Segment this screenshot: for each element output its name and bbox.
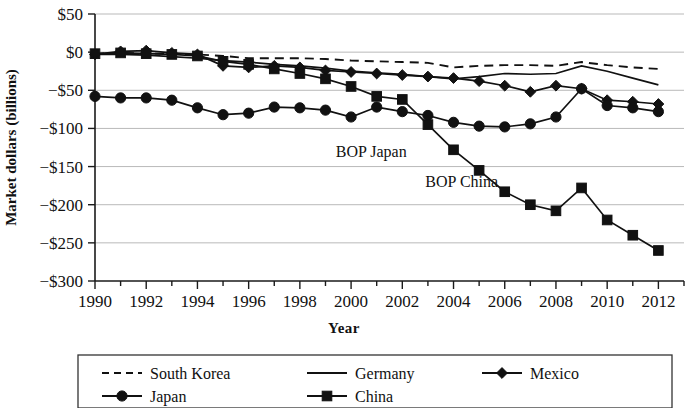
series-marker-china-20: [602, 215, 612, 225]
x-tick-label-4: 1998: [283, 292, 317, 311]
legend-sample-marker-china-0: [322, 391, 332, 401]
series-marker-japan-4: [192, 103, 202, 113]
y-tick-label-7: −$300: [39, 272, 83, 291]
series-marker-mexico-18: [551, 80, 562, 91]
series-marker-japan-13: [423, 110, 433, 120]
series-marker-mexico-16: [499, 80, 510, 91]
legend-label-mexico: Mexico: [530, 365, 579, 382]
legend-sample-marker-japan-0: [117, 391, 127, 401]
series-marker-china-11: [372, 92, 382, 102]
series-marker-china-4: [193, 51, 203, 61]
y-tick-label-6: −$250: [39, 234, 83, 253]
series-marker-japan-21: [628, 103, 638, 113]
series-marker-china-1: [116, 48, 126, 58]
series-marker-china-18: [551, 206, 561, 216]
x-axis-title: Year: [328, 320, 360, 336]
series-marker-mexico-13: [423, 71, 434, 82]
x-tick-label-8: 2006: [488, 292, 522, 311]
series-marker-japan-8: [295, 103, 305, 113]
series-marker-japan-12: [397, 107, 407, 117]
legend-label-japan: Japan: [150, 388, 186, 406]
y-tick-label-2: −$50: [48, 81, 83, 100]
x-tick-label-9: 2008: [539, 292, 573, 311]
series-marker-china-6: [244, 60, 254, 70]
series-marker-china-12: [398, 95, 408, 105]
series-marker-china-10: [346, 82, 356, 92]
series-marker-japan-11: [372, 102, 382, 112]
series-marker-japan-10: [346, 112, 356, 122]
y-tick-label-3: −$100: [39, 119, 83, 138]
series-marker-china-7: [269, 64, 279, 74]
y-tick-label-1: $0: [66, 43, 83, 62]
series-marker-japan-2: [141, 93, 151, 103]
x-tick-label-5: 2000: [334, 292, 368, 311]
series-marker-japan-1: [116, 93, 126, 103]
series-marker-japan-17: [525, 119, 535, 129]
legend-label-germany: Germany: [355, 365, 415, 383]
chart-canvas: $50$0−$50−$100−$150−$200−$250−$300199019…: [0, 0, 689, 408]
series-marker-mexico-14: [448, 73, 459, 84]
series-marker-japan-7: [269, 102, 279, 112]
series-marker-japan-15: [474, 121, 484, 131]
series-marker-china-9: [321, 74, 331, 84]
series-marker-china-0: [90, 49, 100, 59]
series-marker-japan-9: [320, 105, 330, 115]
x-tick-label-2: 1994: [180, 292, 215, 311]
series-marker-china-21: [628, 230, 638, 240]
series-marker-japan-16: [500, 122, 510, 132]
annotation-bop-china: BOP China: [425, 173, 498, 190]
y-tick-label-5: −$200: [39, 196, 83, 215]
y-tick-label-4: −$150: [39, 158, 83, 177]
series-marker-china-16: [500, 187, 510, 197]
series-marker-china-3: [167, 50, 177, 60]
series-marker-china-19: [577, 183, 587, 193]
series-marker-china-22: [654, 246, 664, 256]
x-tick-label-0: 1990: [78, 292, 112, 311]
series-marker-china-17: [526, 200, 536, 210]
series-marker-china-2: [141, 49, 151, 59]
series-marker-china-5: [218, 56, 228, 66]
series-marker-mexico-12: [397, 70, 408, 81]
series-marker-china-13: [423, 120, 433, 130]
series-marker-japan-0: [90, 91, 100, 101]
x-tick-label-6: 2002: [385, 292, 419, 311]
series-marker-mexico-17: [525, 86, 536, 97]
y-axis-title: Market dollars (billions): [3, 69, 20, 226]
series-marker-china-14: [449, 145, 459, 155]
series-marker-japan-14: [448, 117, 458, 127]
series-marker-china-8: [295, 69, 305, 79]
series-marker-japan-3: [167, 95, 177, 105]
bop-line-chart-figure: $50$0−$50−$100−$150−$200−$250−$300199019…: [0, 0, 689, 408]
x-tick-label-1: 1992: [129, 292, 163, 311]
series-marker-japan-18: [551, 112, 561, 122]
y-tick-label-0: $50: [58, 5, 84, 24]
series-marker-japan-5: [218, 110, 228, 120]
series-marker-mexico-10: [346, 67, 357, 78]
x-tick-label-3: 1996: [232, 292, 266, 311]
x-tick-label-11: 2012: [641, 292, 675, 311]
x-tick-label-7: 2004: [437, 292, 472, 311]
series-marker-japan-6: [244, 108, 254, 118]
annotation-bop-japan: BOP Japan: [336, 143, 407, 161]
legend-label-south-korea: South Korea: [150, 365, 230, 382]
series-marker-japan-19: [576, 84, 586, 94]
legend-label-china: China: [355, 388, 393, 405]
series-marker-japan-22: [653, 107, 663, 117]
series-marker-mexico-11: [371, 68, 382, 79]
series-marker-japan-20: [602, 100, 612, 110]
x-tick-label-10: 2010: [590, 292, 624, 311]
